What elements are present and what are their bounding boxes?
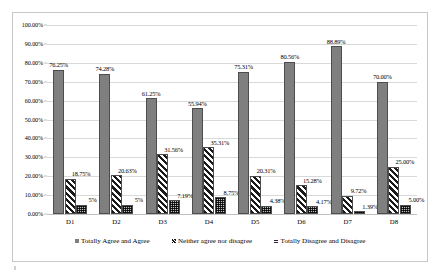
bar-group-d7: 88.89%9.72%1.39% xyxy=(331,25,365,214)
bar-value-label: 55.94% xyxy=(188,100,207,107)
y-axis-tick-label: 90.00% xyxy=(25,41,43,47)
bar-group-d3: 61.25%31.56%7.19% xyxy=(146,25,180,214)
bar-value-label: 4.38% xyxy=(270,197,286,204)
bar-d8-series3[interactable] xyxy=(400,205,411,214)
bar-group-d6: 80.56%15.28%4.17% xyxy=(284,25,318,214)
bar-value-label: 70.00% xyxy=(373,73,392,80)
bar-value-label: 20.31% xyxy=(257,167,276,174)
x-axis: D1D2D3D4D5D6D7D8 xyxy=(47,218,417,232)
bar-group-d5: 75.31%20.31%4.38% xyxy=(238,25,272,214)
bar-value-label: 18.75% xyxy=(72,170,91,177)
y-axis-tick-label: 60.00% xyxy=(25,98,43,104)
bar-value-label: 5.00% xyxy=(408,196,424,203)
x-axis-tick-d4: D4 xyxy=(205,218,213,225)
x-axis-tick-d5: D5 xyxy=(251,218,259,225)
bar-d8-series2[interactable] xyxy=(388,167,399,214)
bar-value-label: 76.25% xyxy=(49,61,68,68)
bar-d2-series1[interactable] xyxy=(99,74,110,214)
bar-d7-series3[interactable] xyxy=(354,211,365,214)
bar-value-label: 1.39% xyxy=(362,203,378,210)
bar-d6-series1[interactable] xyxy=(284,62,295,214)
bar-value-label: 35.31% xyxy=(210,139,229,146)
bar-value-label: 80.56% xyxy=(280,53,299,60)
bar-d1-series1[interactable] xyxy=(53,70,64,214)
y-axis-tick-label: 0.00% xyxy=(28,211,43,217)
bar-d3-series2[interactable] xyxy=(157,154,168,214)
bar-value-label: 75.31% xyxy=(234,63,253,70)
bar-d1-series3[interactable] xyxy=(76,205,87,214)
legend-swatch-icon xyxy=(172,239,176,243)
legend-label: Totally Agree and Agree xyxy=(81,237,150,245)
legend-label: Neither agree nor disagree xyxy=(178,237,252,245)
x-axis-tick-d6: D6 xyxy=(297,218,305,225)
y-axis-tick-label: 80.00% xyxy=(25,60,43,66)
bar-value-label: 88.89% xyxy=(327,38,346,45)
bar-value-label: 20.63% xyxy=(118,167,137,174)
bar-value-label: 74.28% xyxy=(95,65,114,72)
bar-d3-series3[interactable] xyxy=(169,200,180,214)
bar-d1-series2[interactable] xyxy=(65,179,76,214)
bar-value-label: 9.72% xyxy=(351,187,367,194)
y-axis-tick-label: 40.00% xyxy=(25,135,43,141)
x-axis-tick-d1: D1 xyxy=(66,218,74,225)
y-axis-tick-label: 50.00% xyxy=(25,117,43,123)
bar-d7-series1[interactable] xyxy=(331,46,342,214)
legend-item-series1[interactable]: Totally Agree and Agree xyxy=(75,237,150,245)
bar-value-label: 7.19% xyxy=(177,192,193,199)
bar-group-d8: 70.00%25.00%5.00% xyxy=(377,25,411,214)
bar-value-label: 8.75% xyxy=(223,189,239,196)
chart-figure: 0.00%10.00%20.00%30.00%40.00%50.00%60.00… xyxy=(12,12,428,262)
bar-value-label: 61.25% xyxy=(142,90,161,97)
bar-value-label: 5% xyxy=(135,196,143,203)
legend-item-series3[interactable]: Totally Disagree and Disagree xyxy=(274,237,365,245)
bar-d4-series3[interactable] xyxy=(215,197,226,214)
bar-group-d4: 55.94%35.31%8.75% xyxy=(192,25,226,214)
bar-value-label: 31.56% xyxy=(164,146,183,153)
bar-d5-series3[interactable] xyxy=(261,206,272,214)
y-axis-tick-label: 30.00% xyxy=(25,154,43,160)
legend-swatch-icon xyxy=(75,239,79,243)
bar-d2-series3[interactable] xyxy=(122,205,133,214)
x-axis-tick-d7: D7 xyxy=(343,218,351,225)
bar-d4-series1[interactable] xyxy=(192,108,203,214)
y-axis: 0.00%10.00%20.00%30.00%40.00%50.00%60.00… xyxy=(13,13,47,226)
legend-item-series2[interactable]: Neither agree nor disagree xyxy=(172,237,253,245)
bar-d6-series3[interactable] xyxy=(307,206,318,214)
legend-label: Totally Disagree and Disagree xyxy=(281,237,366,245)
x-axis-tick-d8: D8 xyxy=(390,218,398,225)
gridline xyxy=(47,214,417,215)
y-axis-tick-label: 100.00% xyxy=(22,22,43,28)
bar-group-d1: 76.25%18.75%5% xyxy=(53,25,87,214)
bar-group-d2: 74.28%20.63%5% xyxy=(99,25,133,214)
bar-d7-series2[interactable] xyxy=(342,196,353,214)
bar-d8-series1[interactable] xyxy=(377,82,388,214)
bar-value-label: 25.00% xyxy=(395,158,414,165)
bar-value-label: 5% xyxy=(89,196,97,203)
y-axis-tick-label: 70.00% xyxy=(25,79,43,85)
bar-d2-series2[interactable] xyxy=(111,175,122,214)
x-axis-tick-d3: D3 xyxy=(158,218,166,225)
x-axis-tick-d2: D2 xyxy=(112,218,120,225)
page-artifact xyxy=(14,266,16,270)
y-axis-tick-label: 10.00% xyxy=(25,192,43,198)
y-axis-tick-label: 20.00% xyxy=(25,173,43,179)
legend-swatch-icon xyxy=(274,239,278,243)
bar-d5-series1[interactable] xyxy=(238,72,249,214)
bar-value-label: 15.28% xyxy=(303,177,322,184)
bar-d5-series2[interactable] xyxy=(250,176,261,214)
bar-value-label: 4.17% xyxy=(316,198,332,205)
bar-d6-series2[interactable] xyxy=(296,185,307,214)
plot-area: 76.25%18.75%5%74.28%20.63%5%61.25%31.56%… xyxy=(47,25,417,214)
chart-legend: Totally Agree and AgreeNeither agree nor… xyxy=(13,237,427,245)
bar-d4-series2[interactable] xyxy=(203,147,214,214)
bar-d3-series1[interactable] xyxy=(146,98,157,214)
